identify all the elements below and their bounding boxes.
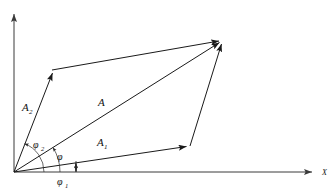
parallelogram-side-top [52,41,219,70]
angle-label-phi2: φ [33,139,39,150]
angle-label-phi1: φ [57,176,63,187]
x-axis-label: X [321,168,328,177]
vector-a2-line [14,73,53,172]
vector-label-a1: A [96,136,104,148]
vector-a1-line [14,147,187,173]
vector-label-a2: A [21,101,29,113]
figure-canvas: X [0,0,336,191]
vectors-group [14,43,220,173]
vector-a-line [14,43,220,173]
vector-label-a: A [97,96,105,108]
vector-label-a2-subscript: 2 [29,108,33,116]
angle-label-phi1-subscript: 1 [65,182,68,189]
vector-parallelogram-figure: X [0,0,336,191]
vector-label-a1-subscript: 1 [104,143,108,151]
angle-label-phi: φ [57,151,63,162]
angle-labels-group: φ 2 φ φ 1 [33,139,68,189]
parallelogram-side-right [190,44,222,146]
angle-label-phi2-subscript: 2 [41,145,45,152]
